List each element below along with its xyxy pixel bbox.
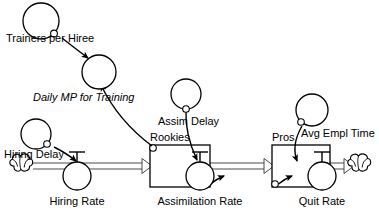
stock-rookies-label: Rookies <box>150 131 190 143</box>
aux-daily-mp-for-training-label: Daily MP for Training <box>33 91 135 103</box>
flow-assimilation-rate-label: Assimilation Rate <box>158 195 243 207</box>
aux-trainers-per-hiree[interactable]: Trainers per Hiree <box>6 3 94 44</box>
flow-pipe-hiring <box>33 159 152 174</box>
flow-pipe-assimilation <box>210 159 274 174</box>
aux-assim-delay[interactable]: Assim Delay <box>158 79 220 127</box>
aux-hiring-delay[interactable]: Hiring Delay <box>4 119 64 160</box>
aux-hiring-delay-label: Hiring Delay <box>4 148 64 160</box>
aux-assim-delay-label: Assim Delay <box>158 115 220 127</box>
aux-avg-empl-time[interactable]: Avg Empl Time <box>296 94 375 139</box>
stock-flow-diagram: Rookies Pros Hiring Rate <box>0 0 379 215</box>
hiring-delay-handle[interactable] <box>44 141 51 148</box>
flow-quit-rate-label: Quit Rate <box>299 195 345 207</box>
aux-trainers-per-hiree-label: Trainers per Hiree <box>6 32 94 44</box>
flow-hiring-rate[interactable]: Hiring Rate <box>49 152 104 207</box>
flow-hiring-rate-label: Hiring Rate <box>49 195 104 207</box>
assim-delay-handle[interactable] <box>183 106 190 113</box>
avg-empl-time-handle[interactable] <box>298 119 305 126</box>
stock-pros-label: Pros <box>272 131 295 143</box>
aux-daily-mp-for-training[interactable]: Daily MP for Training <box>33 55 135 103</box>
diagram-canvas: Rookies Pros Hiring Rate <box>0 0 379 215</box>
pros-bottom-handle[interactable] <box>272 181 279 188</box>
aux-avg-empl-time-label: Avg Empl Time <box>301 127 375 139</box>
